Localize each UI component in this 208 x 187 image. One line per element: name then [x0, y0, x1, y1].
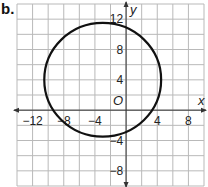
- x-tick-label: 4: [154, 114, 161, 128]
- x-axis-label: x: [197, 93, 205, 108]
- y-tick-label: 8: [116, 43, 123, 57]
- origin-label: O: [113, 93, 123, 108]
- x-axis-left-arrow-icon: [13, 108, 19, 113]
- x-tick-label: 8: [185, 114, 192, 128]
- y-tick-label: −8: [109, 164, 123, 178]
- x-tick-label: −4: [88, 114, 102, 128]
- y-tick-label: 4: [116, 73, 123, 87]
- coordinate-plane: −12−8−4481284−4−8xyO: [0, 0, 208, 187]
- x-tick-label: −12: [22, 114, 43, 128]
